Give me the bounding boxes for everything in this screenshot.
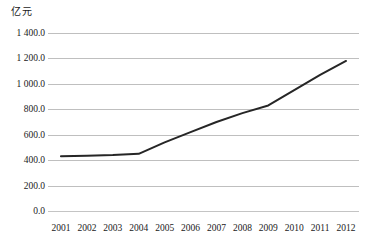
x-axis-tick-label: 2007 bbox=[207, 222, 226, 234]
x-axis-tick-label: 2006 bbox=[181, 222, 200, 234]
x-axis-tick-label: 2011 bbox=[311, 222, 330, 234]
y-axis-tick-label: 0.0 bbox=[1, 206, 45, 216]
x-axis-tick-label: 2001 bbox=[51, 222, 70, 234]
y-axis-tick-label: 1 400.0 bbox=[1, 28, 45, 38]
y-axis-tick-label: 200.0 bbox=[1, 181, 45, 191]
series-polyline bbox=[61, 61, 346, 156]
series-line bbox=[48, 33, 359, 211]
x-axis-tick-label: 2008 bbox=[233, 222, 252, 234]
x-axis-tick-labels: 2001200220032004200520062007200820092010… bbox=[48, 222, 359, 236]
y-axis-tick-labels: 0.0200.0400.0600.0800.01 000.01 200.01 4… bbox=[0, 33, 45, 211]
x-axis-tick-label: 2005 bbox=[155, 222, 174, 234]
y-axis-tick-label: 600.0 bbox=[1, 130, 45, 140]
x-axis-tick-label: 2009 bbox=[259, 222, 278, 234]
line-chart: 亿元 0.0200.0400.0600.0800.01 000.01 200.0… bbox=[0, 0, 370, 244]
y-axis-tick-label: 1 000.0 bbox=[1, 79, 45, 89]
x-axis-tick-label: 2004 bbox=[129, 222, 148, 234]
y-axis-tick-label: 400.0 bbox=[1, 155, 45, 165]
y-axis-unit-label: 亿元 bbox=[11, 6, 32, 18]
y-axis-tick-label: 1 200.0 bbox=[1, 53, 45, 63]
x-axis-tick-label: 2012 bbox=[337, 222, 356, 234]
x-axis-tick-label: 2010 bbox=[285, 222, 304, 234]
y-axis-tick-label: 800.0 bbox=[1, 104, 45, 114]
plot-area bbox=[48, 33, 359, 211]
x-axis-tick-label: 2002 bbox=[77, 222, 96, 234]
x-axis-tick-label: 2003 bbox=[103, 222, 122, 234]
